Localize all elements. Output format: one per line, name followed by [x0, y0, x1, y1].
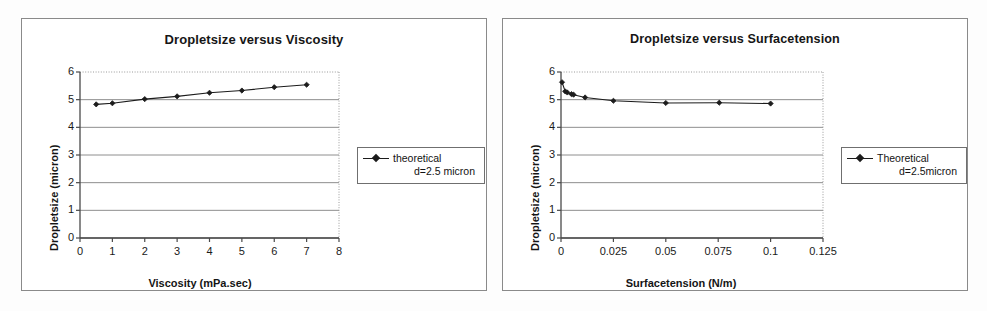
y-axis-tick-label: 4 — [46, 120, 74, 132]
legend-label-line1: theoretical — [393, 152, 441, 165]
x-axis-tick-label: 8 — [315, 245, 363, 257]
y-axis-tick-label: 0 — [527, 231, 555, 243]
legend-viscosity: theoretical d=2.5 micron — [357, 147, 485, 184]
legend-label-line2: d=2.5micron — [847, 165, 960, 178]
y-axis-tick-label: 1 — [527, 203, 555, 215]
y-axis-tick-label: 6 — [527, 65, 555, 77]
y-axis-tick-label: 0 — [46, 231, 74, 243]
x-axis-tick-label: 0.1 — [747, 245, 795, 257]
x-axis-tick-label: 0.125 — [799, 245, 847, 257]
x-axis-tick-label: 0.075 — [694, 245, 742, 257]
legend-series-marker-icon — [847, 154, 873, 163]
chart-panel-viscosity: Dropletsize versus Viscosity Viscosity (… — [21, 18, 487, 291]
x-axis-title-viscosity: Viscosity (mPa.sec) — [42, 277, 358, 289]
legend-surfacetension: Theoretical d=2.5micron — [841, 147, 967, 184]
y-axis-tick-label: 5 — [46, 93, 74, 105]
y-axis-tick-label: 3 — [46, 148, 74, 160]
x-axis-tick-label: 0 — [537, 245, 585, 257]
legend-series-marker-icon — [363, 154, 389, 163]
y-axis-tick-label: 6 — [46, 65, 74, 77]
chart-panel-surfacetension: Dropletsize versus Surfacetension Surfac… — [502, 18, 968, 291]
legend-label-line2: d=2.5 micron — [363, 165, 478, 178]
legend-label-line1: Theoretical — [877, 152, 929, 165]
y-axis-tick-label: 4 — [527, 120, 555, 132]
y-axis-tick-label: 5 — [527, 93, 555, 105]
y-axis-tick-label: 2 — [527, 176, 555, 188]
y-axis-tick-label: 1 — [46, 203, 74, 215]
x-axis-tick-label: 0.025 — [589, 245, 637, 257]
y-axis-tick-label: 2 — [46, 176, 74, 188]
x-axis-tick-label: 0.05 — [642, 245, 690, 257]
x-axis-title-surfacetension: Surfacetension (N/m) — [523, 277, 839, 289]
y-axis-tick-label: 3 — [527, 148, 555, 160]
